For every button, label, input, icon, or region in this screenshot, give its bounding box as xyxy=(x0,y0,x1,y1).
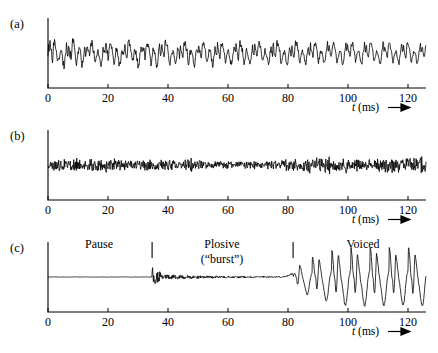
segment-label-voiced: Voiced xyxy=(346,237,379,251)
axis-title-unit: (ms) xyxy=(355,101,379,114)
x-tick-label-a-20: 20 xyxy=(102,91,114,105)
x-tick-label-a-80: 80 xyxy=(282,91,294,105)
x-tick-label-a-0: 0 xyxy=(45,91,51,105)
axis-title-unit: (ms) xyxy=(355,325,379,338)
axis-title-c: t (ms) xyxy=(352,325,379,338)
axis-title-a: t (ms) xyxy=(352,101,379,114)
waveform-b xyxy=(48,156,426,174)
x-tick-label-b-20: 20 xyxy=(102,203,114,217)
x-tick-label-c-0: 0 xyxy=(45,315,51,329)
x-tick-label-a-120: 120 xyxy=(399,91,417,105)
x-tick-label-a-60: 60 xyxy=(222,91,234,105)
segment-label-pause: Pause xyxy=(85,237,113,251)
x-tick-label-c-80: 80 xyxy=(282,315,294,329)
axis-title-unit: (ms) xyxy=(355,213,379,226)
x-tick-label-c-120: 120 xyxy=(399,315,417,329)
x-tick-label-a-40: 40 xyxy=(162,91,174,105)
x-tick-label-c-20: 20 xyxy=(102,315,114,329)
segment-sublabel-plosive: (“burst”) xyxy=(201,252,244,266)
x-tick-label-b-40: 40 xyxy=(162,203,174,217)
panel-label-b: (b) xyxy=(10,129,25,143)
segment-label-plosive: Plosive xyxy=(204,237,239,251)
panel-label-a: (a) xyxy=(10,17,24,31)
x-tick-label-c-60: 60 xyxy=(222,315,234,329)
figure-canvas: (a)020406080100120t (ms)(b)0204060801001… xyxy=(0,0,438,353)
x-tick-label-b-0: 0 xyxy=(45,203,51,217)
axis-title-b: t (ms) xyxy=(352,213,379,226)
waveform-a xyxy=(48,38,426,69)
speech-waveform-figure: (a)020406080100120t (ms)(b)0204060801001… xyxy=(0,0,438,353)
panel-label-c: (c) xyxy=(10,241,24,255)
x-tick-label-b-80: 80 xyxy=(282,203,294,217)
x-tick-label-b-120: 120 xyxy=(399,203,417,217)
x-tick-label-c-40: 40 xyxy=(162,315,174,329)
x-tick-label-b-60: 60 xyxy=(222,203,234,217)
